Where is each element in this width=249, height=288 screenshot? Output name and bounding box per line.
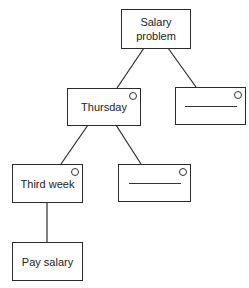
node-label: Pay salary: [22, 255, 73, 269]
node-thursday: Thursday: [67, 88, 141, 126]
node-label-line: problem: [136, 29, 176, 43]
edge-root-blank1: [168, 48, 196, 87]
blank-line: [129, 183, 181, 184]
node-salary-problem: Salary problem: [121, 9, 191, 49]
edge-root-thursday: [117, 48, 144, 88]
node-label: Thursday: [81, 100, 127, 114]
node-blank-right: [175, 87, 246, 125]
blank-line: [185, 106, 237, 107]
circle-icon: [234, 91, 242, 99]
node-blank-middle: [118, 164, 191, 202]
node-label: Third week: [21, 177, 75, 191]
circle-icon: [179, 168, 187, 176]
edge-thursday-blank2: [116, 125, 141, 164]
edge-thursday-thirdweek: [61, 125, 88, 164]
circle-icon: [71, 168, 79, 176]
node-pay-salary: Pay salary: [12, 242, 83, 281]
node-third-week: Third week: [12, 164, 83, 203]
circle-icon: [129, 92, 137, 100]
node-label-line: Salary: [136, 15, 176, 29]
